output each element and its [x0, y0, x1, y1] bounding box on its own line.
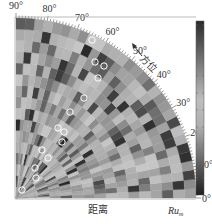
- heatmap-cell: [95, 193, 106, 198]
- heatmap-cell: [16, 63, 23, 74]
- polar-heatmap-figure: 0°10°20°30°40°50°60°70°80°90° 方位 距离 Rum: [0, 0, 212, 224]
- heatmap-cell: [106, 193, 117, 198]
- heatmap-cell: [16, 29, 25, 40]
- heatmap-cell: [16, 153, 18, 164]
- heatmap-cell: [21, 86, 27, 98]
- heatmap-cell: [16, 18, 25, 29]
- heatmap-cell: [31, 41, 40, 53]
- angle-tick-label: 60°: [106, 26, 120, 37]
- heatmap-cell: [16, 108, 21, 119]
- heatmap-cell: [16, 131, 20, 142]
- heatmap-cell: [22, 63, 30, 75]
- heatmap-cell: [16, 142, 19, 153]
- angle-tick-label: 30°: [176, 97, 190, 108]
- heatmap-cell: [161, 182, 173, 191]
- heatmap-cell: [32, 30, 42, 42]
- heatmap-cell: [16, 86, 22, 97]
- heatmap-cell: [117, 192, 128, 198]
- heatmap-cell: [139, 184, 151, 192]
- polar-heatmap-chart: 0°10°20°30°40°50°60°70°80°90° 方位 距离 Rum: [0, 0, 212, 224]
- heatmap-cell: [16, 52, 24, 63]
- heatmap-cell: [162, 190, 173, 198]
- heatmap-cell: [22, 74, 29, 86]
- heatmap-cell: [140, 191, 151, 198]
- angle-tick-label: 40°: [157, 69, 171, 80]
- heatmap-cell: [151, 190, 162, 198]
- heatmap-cell: [16, 41, 24, 52]
- heatmap-cell: [184, 179, 196, 189]
- angle-tick-label: 90°: [9, 0, 23, 11]
- heatmap-cells: [16, 18, 196, 198]
- heatmap-cell: [128, 192, 139, 198]
- heatmap-cell: [21, 97, 27, 109]
- heatmap-cell: [150, 183, 162, 191]
- heatmap-cell: [24, 41, 33, 53]
- heatmap-cell: [34, 19, 45, 31]
- heatmap-cell: [173, 180, 185, 189]
- colorbar: [196, 21, 204, 195]
- heatmap-cell: [25, 18, 35, 30]
- heatmap-cell: [16, 97, 21, 108]
- heatmap-cell: [185, 189, 196, 198]
- distance-label: 距离: [88, 203, 108, 215]
- heatmap-cell: [16, 119, 20, 130]
- angle-tick-label: 80°: [43, 3, 57, 14]
- ru-label: Rum: [167, 205, 184, 217]
- heatmap-cell: [173, 189, 184, 198]
- heatmap-cell: [16, 74, 22, 85]
- heatmap-cell: [23, 52, 31, 64]
- heatmap-cell: [24, 29, 33, 41]
